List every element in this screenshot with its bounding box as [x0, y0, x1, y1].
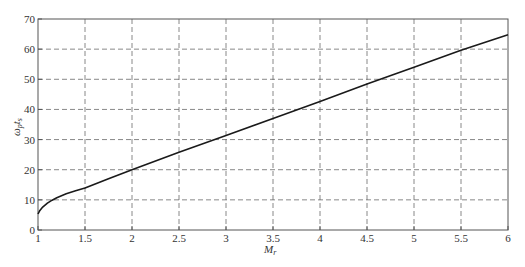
x-tick-label: 1.5: [78, 232, 92, 244]
y-tick-label: 50: [24, 73, 36, 85]
line-chart: 11.522.533.544.555.56 010203040506070 Mr…: [0, 0, 525, 267]
y-axis-ticks: 010203040506070: [24, 13, 42, 236]
x-tick-label: 1: [35, 232, 41, 244]
x-tick-label: 2.5: [172, 232, 186, 244]
x-axis-ticks: 11.522.533.544.555.56: [35, 226, 511, 244]
y-tick-label: 60: [24, 43, 36, 55]
y-tick-label: 40: [24, 103, 36, 115]
x-tick-label: 3: [223, 232, 229, 244]
x-tick-label: 5: [411, 232, 417, 244]
y-axis-label: ωpts: [10, 118, 24, 136]
x-tick-label: 5.5: [454, 232, 468, 244]
x-axis-label: Mr: [263, 243, 277, 257]
x-tick-label: 4.5: [360, 232, 374, 244]
grid-lines: [38, 19, 508, 230]
y-tick-label: 0: [30, 224, 36, 236]
y-tick-label: 30: [24, 134, 36, 146]
x-tick-label: 6: [505, 232, 511, 244]
x-tick-label: 4: [317, 232, 323, 244]
x-tick-label: 2: [129, 232, 135, 244]
y-tick-label: 70: [24, 13, 36, 25]
y-tick-label: 10: [24, 194, 36, 206]
y-tick-label: 20: [24, 164, 36, 176]
